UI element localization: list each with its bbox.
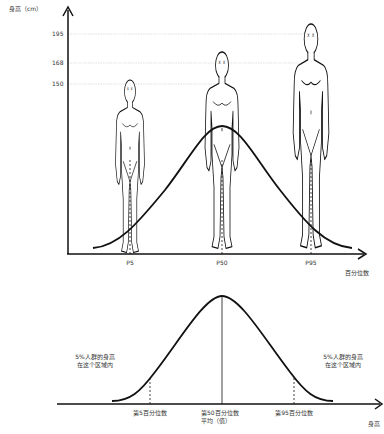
top-chart <box>63 7 366 259</box>
y-tick-168: 168 <box>52 59 63 67</box>
x-tick-p50: P50 <box>212 259 232 267</box>
right-annotation: 5%人群的身高 在这个区域内 <box>318 353 368 369</box>
x-tick-p95: P95 <box>301 259 321 267</box>
x-tick-p5: P5 <box>120 259 140 267</box>
figure-p50 <box>205 52 239 248</box>
figure-p5 <box>116 80 145 253</box>
p5-label: 第5百分位数 <box>125 409 175 417</box>
y-tick-150: 150 <box>52 80 63 88</box>
p95-label: 第95百分位数 <box>269 409 319 417</box>
y-axis-label: 身高（cm） <box>9 5 42 13</box>
p50-label: 第50百分位数 平均（值） <box>201 409 239 425</box>
figure-p95 <box>293 24 329 248</box>
x-axis-label: 百分位数 <box>345 269 369 277</box>
bottom-bell-curve <box>112 296 333 401</box>
bottom-x-axis-label: 身高 <box>368 420 380 428</box>
y-tick-195: 195 <box>52 30 63 38</box>
left-annotation: 5%人群的身高 在这个区域内 <box>70 353 120 369</box>
